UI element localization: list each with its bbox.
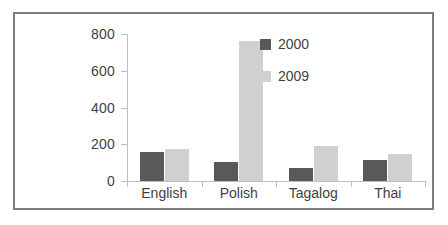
- y-axis-tick-label: 200: [53, 137, 115, 151]
- chart-frame: 0200400600800 EnglishPolishTagalogThai 2…: [13, 12, 434, 210]
- x-axis-label-thai: Thai: [351, 186, 426, 201]
- bar-polish-2000: [214, 162, 238, 181]
- bar-thai-2009: [388, 154, 412, 181]
- bar-english-2009: [165, 149, 189, 181]
- x-axis-label-polish: Polish: [202, 186, 277, 201]
- y-axis-tick-label: 800: [53, 27, 115, 41]
- legend-swatch-2009: [260, 71, 271, 82]
- legend-swatch-2000: [260, 39, 271, 50]
- legend-item-2000: 2000: [260, 37, 309, 51]
- chart-legend: 20002009: [260, 37, 309, 101]
- x-axis-label-english: English: [127, 186, 202, 201]
- y-axis-tick-label: 400: [53, 101, 115, 115]
- legend-label-2000: 2000: [278, 37, 309, 51]
- legend-item-2009: 2009: [260, 69, 309, 83]
- x-axis-tick: [425, 181, 426, 187]
- bar-tagalog-2009: [314, 146, 338, 181]
- legend-label-2009: 2009: [278, 69, 309, 83]
- chart-plot-area: 0200400600800 EnglishPolishTagalogThai 2…: [15, 14, 432, 208]
- bar-english-2000: [140, 152, 164, 181]
- y-axis-tick-label: 600: [53, 64, 115, 78]
- x-axis-label-tagalog: Tagalog: [276, 186, 351, 201]
- bar-thai-2000: [363, 160, 387, 181]
- bar-tagalog-2000: [289, 168, 313, 181]
- y-axis-tick-label: 0: [53, 174, 115, 188]
